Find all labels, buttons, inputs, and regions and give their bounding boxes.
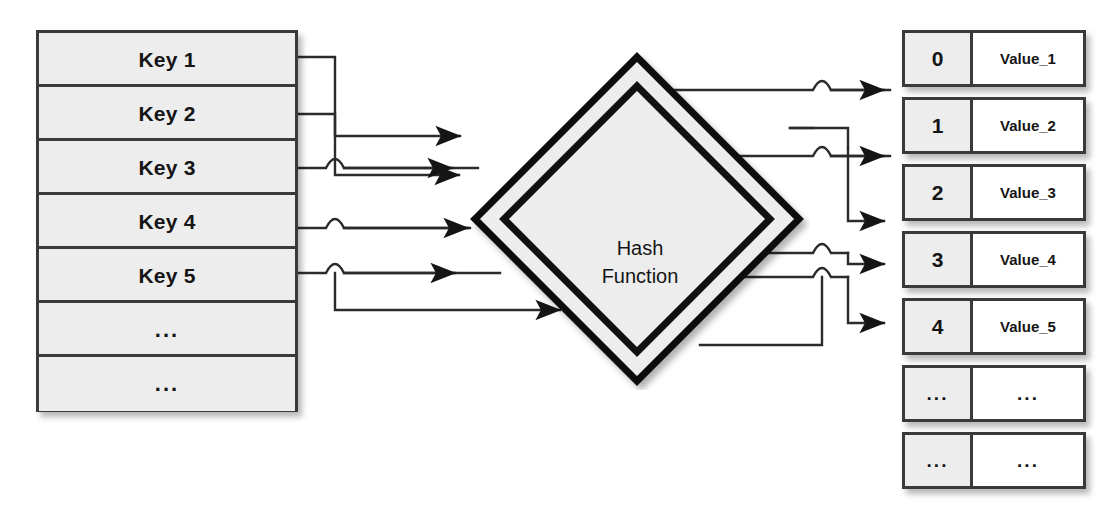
- value-index: 1: [905, 100, 973, 151]
- value-row-ellipsis: ... ...: [902, 365, 1086, 422]
- wire-key1: [298, 57, 460, 136]
- value-row[interactable]: 2 Value_3: [902, 164, 1086, 221]
- value-label: ...: [973, 368, 1083, 419]
- key-row-ellipsis: ...: [39, 357, 295, 411]
- hash-function-diamond: [470, 48, 810, 390]
- key-row[interactable]: Key 3: [39, 141, 295, 195]
- value-row[interactable]: 0 Value_1: [902, 30, 1086, 87]
- value-label: Value_4: [973, 234, 1083, 285]
- hash-function-node: Hash Function: [470, 48, 810, 390]
- value-index: 0: [905, 33, 973, 84]
- value-row-ellipsis: ... ...: [902, 432, 1086, 489]
- values-table: 0 Value_1 1 Value_2 2 Value_3 3 Value_4 …: [902, 30, 1086, 489]
- value-row[interactable]: 4 Value_5: [902, 298, 1086, 355]
- wire-out-3: [848, 253, 884, 264]
- wire-key3-hop: [298, 159, 478, 168]
- value-index: ...: [905, 368, 973, 419]
- value-row[interactable]: 3 Value_4: [902, 231, 1086, 288]
- value-label: Value_1: [973, 33, 1083, 84]
- value-label: Value_2: [973, 100, 1083, 151]
- value-index: 4: [905, 301, 973, 352]
- key-row[interactable]: Key 1: [39, 33, 295, 87]
- value-index: 2: [905, 167, 973, 218]
- value-index: ...: [905, 435, 973, 486]
- diamond-inner-border: [504, 86, 770, 352]
- value-index: 3: [905, 234, 973, 285]
- value-label: ...: [973, 435, 1083, 486]
- keys-table: Key 1 Key 2 Key 3 Key 4 Key 5 ... ...: [36, 30, 298, 412]
- wire-out-4: [848, 277, 884, 323]
- key-row[interactable]: Key 5: [39, 249, 295, 303]
- value-row[interactable]: 1 Value_2: [902, 97, 1086, 154]
- wire-key4-hop: [298, 219, 470, 228]
- key-row[interactable]: Key 4: [39, 195, 295, 249]
- value-label: Value_5: [973, 301, 1083, 352]
- wire-out-2: [848, 148, 884, 221]
- wire-key2: [298, 114, 459, 175]
- key-row-ellipsis: ...: [39, 303, 295, 357]
- key-row[interactable]: Key 2: [39, 87, 295, 141]
- diagram-canvas: Hash Function Key 1 Key 2 Key 3 Key 4 Ke…: [0, 0, 1114, 515]
- value-label: Value_3: [973, 167, 1083, 218]
